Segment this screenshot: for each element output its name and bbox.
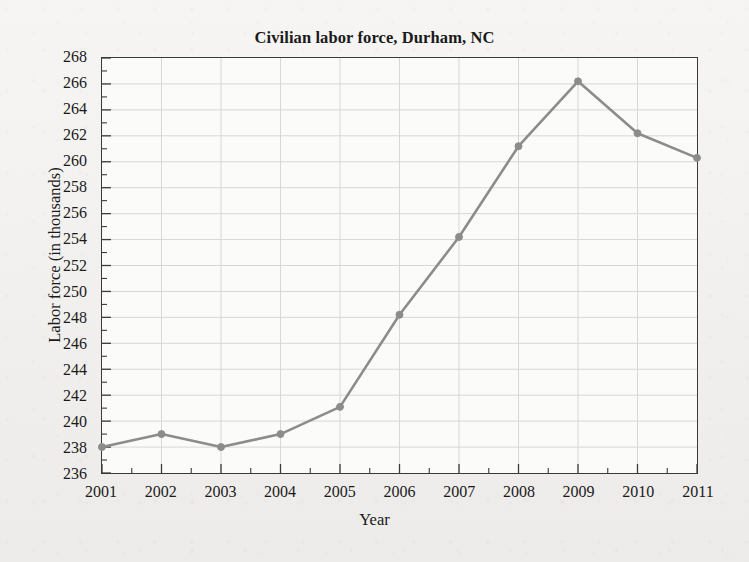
y-axis-tick-label: 264 [0,101,95,117]
y-axis-tick-label: 254 [0,231,95,247]
x-axis-tick-label: 2002 [145,482,177,502]
y-axis-tick-label: 246 [0,336,95,352]
x-axis-tick-label: 2003 [204,482,236,502]
x-axis-tick-label: 2010 [622,482,654,502]
data-series-line [102,58,697,473]
x-axis-tick-label: 2008 [503,482,535,502]
plot-area [101,57,698,474]
y-axis-tick-label: 242 [0,388,95,404]
x-axis-tick-labels: 2001200220032004200520062007200820092010… [0,482,749,508]
x-axis-tick-label: 2004 [264,482,296,502]
y-axis-tick-label: 248 [0,310,95,326]
y-axis-tick-labels: 2362382402422442462482502522542562582602… [0,0,95,562]
y-axis-tick-label: 240 [0,414,95,430]
y-axis-tick-label: 250 [0,284,95,300]
y-axis-tick-label: 238 [0,440,95,456]
y-axis-tick-label: 256 [0,205,95,221]
x-axis-tick-label: 2001 [85,482,117,502]
x-axis-tick-label: 2011 [682,482,713,502]
x-axis-tick-label: 2005 [324,482,356,502]
x-axis-tick-label: 2006 [384,482,416,502]
y-axis-tick-label: 252 [0,258,95,274]
y-axis-tick-label: 262 [0,127,95,143]
y-axis-tick-label: 244 [0,362,95,378]
x-axis-tick-label: 2009 [563,482,595,502]
chart-figure: Civilian labor force, Durham, NC Labor f… [0,0,749,562]
y-axis-tick-label: 236 [0,466,95,482]
y-axis-tick-label: 266 [0,75,95,91]
chart-title: Civilian labor force, Durham, NC [0,28,749,48]
y-axis-tick-label: 260 [0,153,95,169]
y-axis-tick-label: 258 [0,179,95,195]
y-axis-tick-label: 268 [0,49,95,65]
x-axis-title: Year [0,510,749,530]
x-axis-tick-label: 2007 [443,482,475,502]
